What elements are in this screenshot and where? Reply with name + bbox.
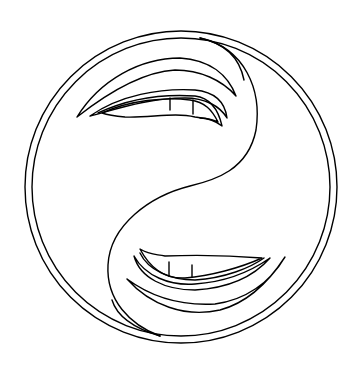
outer-ring [25,31,337,343]
lower-eye [140,249,262,278]
yin-yang-eyes-drawing [0,0,361,371]
lower-iris [169,262,192,277]
upper-brow [77,58,236,117]
lower-eye-lid-outer [134,256,270,290]
inner-ring [32,38,330,336]
